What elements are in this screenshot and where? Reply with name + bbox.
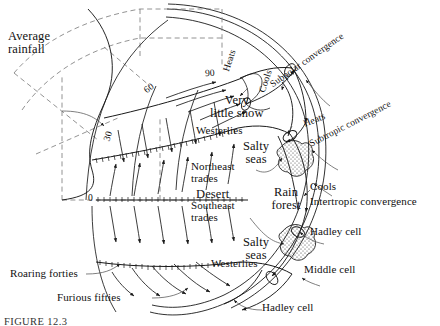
rain-forest-label: Rainforest [264, 186, 308, 213]
cools-intertropic-label: Cools [310, 181, 336, 193]
very-little-snow-label: Verylittle snow [210, 94, 264, 121]
furious-fifties-label: Furious fifties [57, 292, 121, 304]
hadley-cell-south-label: Hadley cell [262, 302, 314, 314]
atmospheric-circulation-figure: Averagerainfall Verylittle snow Westerli… [0, 0, 440, 326]
roaring-forties-label: Roaring forties [10, 268, 78, 280]
latitude-0-label: 0 [88, 193, 93, 203]
desert-label: Desert [196, 188, 229, 201]
middle-cell-label: Middle cell [304, 264, 356, 276]
average-rainfall-label: Averagerainfall [8, 30, 50, 57]
salty-seas-north-label: Saltyseas [232, 140, 280, 167]
salty-seas-south-label: Saltyseas [232, 236, 280, 263]
southeast-trades-label: Southeasttrades [191, 200, 235, 223]
hadley-cell-north-label: Hadley cell [310, 226, 362, 238]
westerlies-north-label: Westerlies [196, 125, 243, 137]
northeast-trades-label: Northeasttrades [191, 161, 235, 184]
average-rainfall-curve [62, 9, 112, 200]
intertropic-convergence-label: Intertropic convergence [310, 196, 417, 208]
latitude-90-label: 90 [205, 68, 215, 79]
figure-caption: FIGURE 12.3 [4, 316, 67, 326]
